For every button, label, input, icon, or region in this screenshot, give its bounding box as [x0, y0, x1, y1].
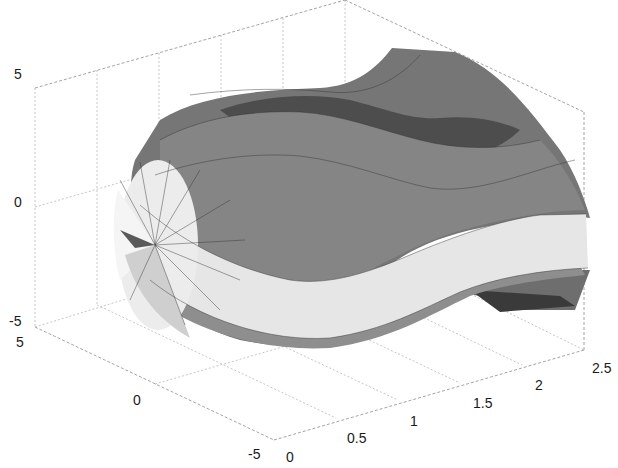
- x-tick-label: 2.5: [592, 360, 611, 376]
- y-tick-label: -5: [248, 446, 260, 462]
- surface-plot-figure: 5 0 -5 5 0 -5 0 0.5 1 1.5 2 2.5: [0, 0, 618, 468]
- surface: [114, 48, 590, 348]
- y-tick-label: 0: [133, 392, 141, 408]
- x-tick-label: 1: [410, 413, 418, 429]
- z-tick-label: -5: [9, 313, 21, 329]
- x-tick-label: 0.5: [347, 430, 366, 446]
- plot-axes: [0, 0, 618, 468]
- z-tick-label: 0: [14, 194, 22, 210]
- x-tick-label: 1.5: [473, 395, 492, 411]
- x-tick-label: 2: [535, 377, 543, 393]
- z-tick-label: 5: [14, 66, 22, 82]
- y-tick-label: 5: [16, 334, 24, 350]
- x-tick-label: 0: [286, 449, 294, 465]
